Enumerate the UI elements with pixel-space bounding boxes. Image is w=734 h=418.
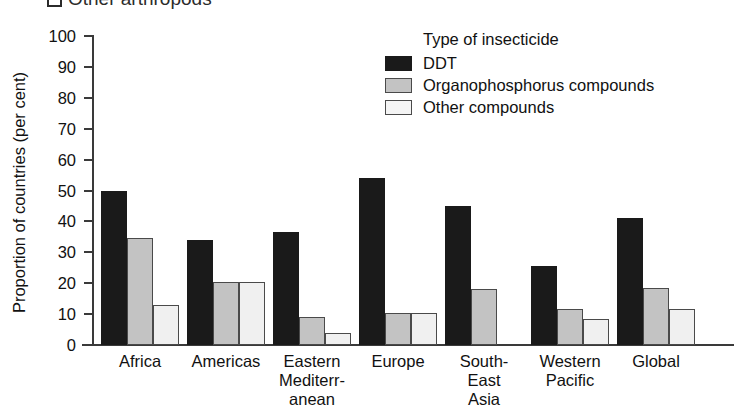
y-axis-tick-label: 100 bbox=[24, 28, 76, 45]
y-axis-tick-label: 90 bbox=[24, 59, 76, 76]
bar bbox=[617, 218, 643, 345]
chart-figure: Other arthropods Proportion of countries… bbox=[0, 0, 734, 418]
top-caption-text: Other arthropods bbox=[68, 0, 212, 10]
bar bbox=[213, 282, 239, 345]
top-caption-clipped: Other arthropods bbox=[0, 0, 734, 14]
y-axis-tick-label: 20 bbox=[24, 275, 76, 292]
bar bbox=[531, 266, 557, 345]
bar bbox=[325, 333, 351, 345]
y-axis-tick-label: 40 bbox=[24, 213, 76, 230]
y-axis-tick-label: 0 bbox=[24, 337, 76, 354]
legend-title: Type of insecticide bbox=[423, 30, 559, 49]
x-axis-label-line: anean bbox=[257, 390, 367, 409]
bar bbox=[445, 206, 471, 345]
bar bbox=[471, 289, 497, 345]
legend-swatch bbox=[385, 100, 412, 115]
bar bbox=[669, 309, 695, 345]
y-axis-tick-label: 60 bbox=[24, 152, 76, 169]
y-axis-tick-label: 10 bbox=[24, 306, 76, 323]
bar bbox=[557, 309, 583, 345]
x-axis-label-line: Pacific bbox=[515, 371, 625, 390]
bar bbox=[411, 313, 437, 345]
y-axis-tick-label: 80 bbox=[24, 90, 76, 107]
legend-swatch bbox=[385, 56, 412, 71]
open-square-bullet-icon bbox=[47, 0, 62, 7]
bar bbox=[187, 240, 213, 345]
x-axis-label: Global bbox=[601, 352, 711, 371]
y-axis-tick-label: 30 bbox=[24, 244, 76, 261]
y-axis-tick-label: 50 bbox=[24, 183, 76, 200]
bar bbox=[239, 282, 265, 345]
bar bbox=[101, 191, 127, 346]
legend-label: Other compounds bbox=[423, 97, 554, 118]
legend-swatch bbox=[385, 78, 412, 93]
x-axis-label-line: Global bbox=[601, 352, 711, 371]
x-axis-label-line: Mediterr- bbox=[257, 371, 367, 390]
bar bbox=[643, 288, 669, 345]
bar bbox=[299, 317, 325, 345]
bar bbox=[127, 238, 153, 345]
bar bbox=[583, 319, 609, 345]
bar bbox=[359, 178, 385, 345]
x-axis-label-line: Asia bbox=[429, 390, 539, 409]
bar bbox=[385, 313, 411, 345]
legend-label: DDT bbox=[423, 53, 457, 74]
bar bbox=[273, 232, 299, 345]
y-axis-tick-label: 70 bbox=[24, 121, 76, 138]
bar bbox=[153, 305, 179, 345]
legend-label: Organophosphorus compounds bbox=[423, 75, 654, 96]
